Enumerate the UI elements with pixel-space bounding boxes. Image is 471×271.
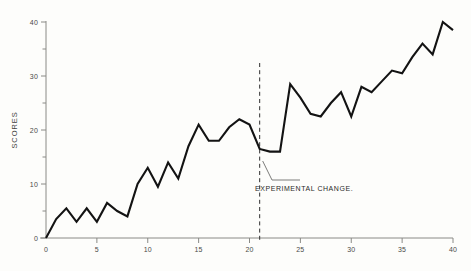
- y-tick-label: 30: [30, 73, 38, 80]
- y-axis-title-text: SCORES: [10, 111, 19, 148]
- x-tick-label: 5: [95, 246, 99, 253]
- y-tick-label: 10: [30, 181, 38, 188]
- annotation-label: EXPERIMENTAL CHANGE.: [255, 185, 353, 192]
- chart-figure: 010203040 0510152025303540 SCORES EXPERI…: [0, 0, 471, 271]
- annotation-leader-line: [263, 161, 300, 180]
- y-tick-label: 0: [34, 235, 38, 242]
- x-tick-label: 25: [296, 246, 304, 253]
- x-tick-label: 30: [347, 246, 355, 253]
- x-tick-label: 10: [144, 246, 152, 253]
- x-tick-label: 15: [195, 246, 203, 253]
- line-chart: 010203040 0510152025303540 SCORES EXPERI…: [0, 0, 471, 271]
- experimental-change-annotation: EXPERIMENTAL CHANGE.: [255, 161, 353, 192]
- x-tick-label: 20: [245, 246, 253, 253]
- x-axis: 0510152025303540: [40, 238, 457, 253]
- scores-line: [46, 22, 453, 238]
- x-tick-label: 35: [398, 246, 406, 253]
- y-tick-label: 20: [30, 127, 38, 134]
- y-axis-title: SCORES: [10, 111, 19, 148]
- data-series-scores: [46, 22, 453, 238]
- x-tick-label: 0: [44, 246, 48, 253]
- x-tick-label: 40: [449, 246, 457, 253]
- y-tick-label: 40: [30, 19, 38, 26]
- y-axis: 010203040: [30, 19, 46, 242]
